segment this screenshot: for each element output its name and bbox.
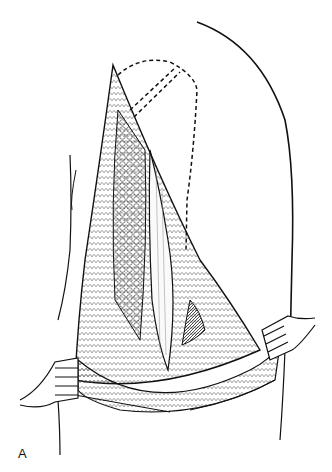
limb-outline-left — [58, 155, 71, 320]
retractor-right — [262, 316, 315, 360]
illustration-canvas — [0, 0, 332, 472]
retractor-left — [20, 358, 78, 407]
surgical-illustration: A — [0, 0, 332, 472]
fat-tissue — [113, 110, 146, 340]
panel-label: A — [18, 446, 27, 461]
